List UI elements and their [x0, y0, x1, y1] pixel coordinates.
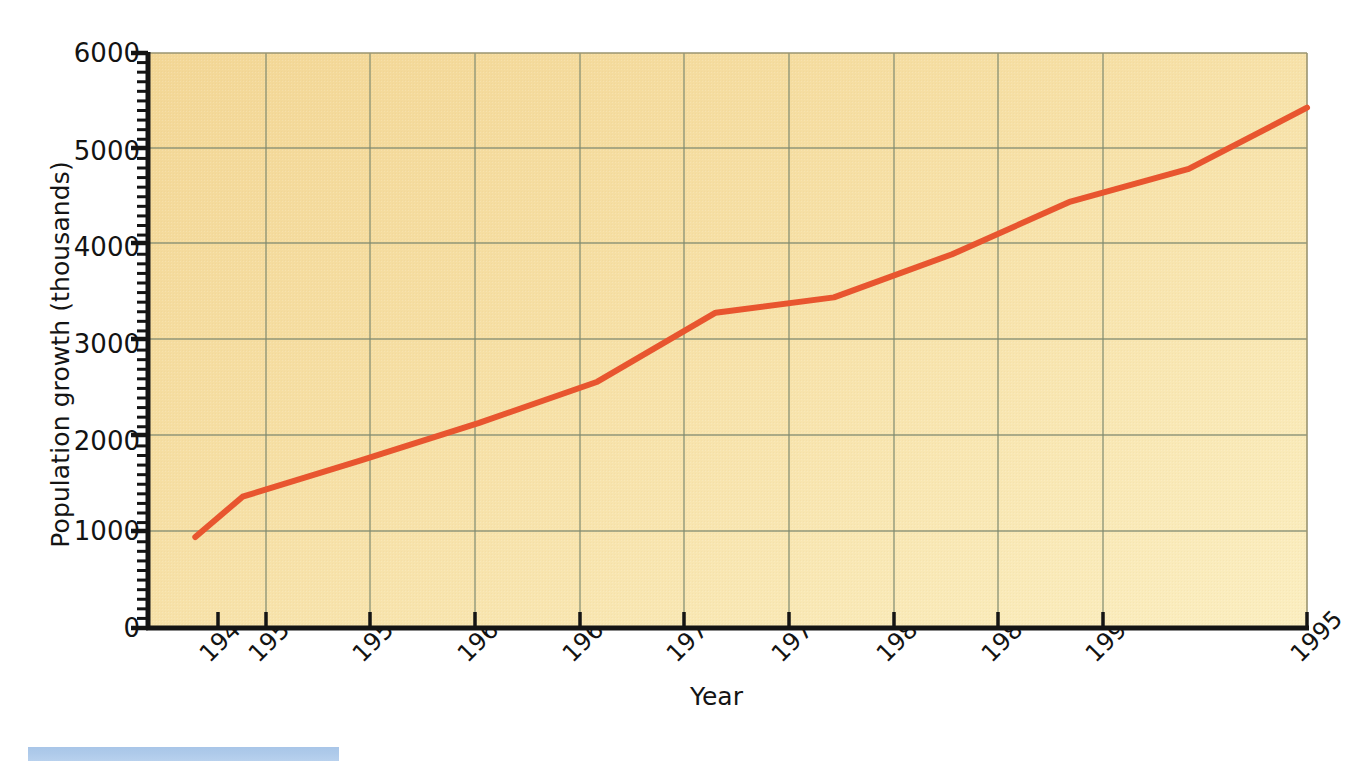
bottom-decorative-bar: [28, 747, 339, 761]
plot-area: [0, 0, 1353, 761]
plot-background-texture: [148, 53, 1307, 628]
chart-figure: Population growth (thousands) 6000 5000 …: [0, 0, 1353, 761]
